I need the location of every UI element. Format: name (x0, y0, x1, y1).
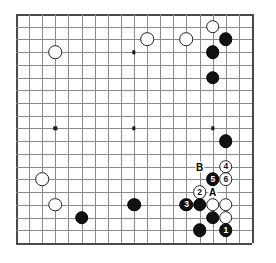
point-marker-b: B (195, 161, 204, 172)
star-point (211, 127, 214, 130)
grid-line-horizontal (16, 167, 252, 168)
star-point (132, 127, 135, 130)
stone-black-move-1[interactable]: 1 (219, 223, 233, 237)
stone-black[interactable] (219, 33, 233, 47)
stone-black[interactable] (219, 134, 233, 148)
move-number-label: 5 (207, 174, 219, 186)
stone-white[interactable] (35, 173, 49, 187)
stone-black[interactable] (206, 71, 220, 85)
go-board-diagram: 456231 BA (0, 0, 276, 263)
grid-line-vertical (160, 14, 161, 243)
stone-black[interactable] (193, 223, 207, 237)
move-number-label: 6 (220, 174, 232, 186)
move-number-label: 3 (181, 199, 193, 211)
stone-white-move-4[interactable]: 4 (219, 160, 233, 174)
stone-black-move-3[interactable]: 3 (180, 198, 194, 212)
grid-line-horizontal (16, 243, 252, 245)
stone-black[interactable] (75, 211, 89, 225)
grid-line-vertical (173, 14, 174, 243)
stone-black[interactable] (127, 198, 141, 212)
stone-white[interactable] (140, 33, 154, 47)
grid-line-vertical (239, 14, 240, 243)
move-number-label: 1 (220, 224, 232, 236)
stone-black[interactable] (206, 45, 220, 59)
stone-white[interactable] (219, 211, 233, 225)
stone-white[interactable] (219, 198, 233, 212)
grid-line-horizontal (16, 154, 252, 155)
star-point (132, 50, 135, 53)
star-point (54, 127, 57, 130)
grid-line-vertical (252, 14, 254, 243)
stone-white-move-2[interactable]: 2 (193, 185, 207, 199)
stone-white[interactable] (206, 20, 220, 34)
stone-black-move-5[interactable]: 5 (206, 173, 220, 187)
move-number-label: 4 (220, 161, 232, 173)
go-board[interactable]: 456231 BA (16, 14, 252, 243)
stone-white-move-6[interactable]: 6 (219, 173, 233, 187)
move-number-label: 2 (194, 186, 206, 198)
grid-line-horizontal (16, 141, 252, 142)
stone-black[interactable] (206, 211, 220, 225)
stone-white[interactable] (49, 45, 63, 59)
stone-white[interactable] (206, 198, 220, 212)
grid-line-horizontal (16, 230, 252, 231)
stone-white[interactable] (180, 33, 194, 47)
stone-black[interactable] (193, 198, 207, 212)
point-marker-a: A (208, 187, 217, 198)
stone-white[interactable] (49, 198, 63, 212)
grid-line-vertical (147, 14, 148, 243)
